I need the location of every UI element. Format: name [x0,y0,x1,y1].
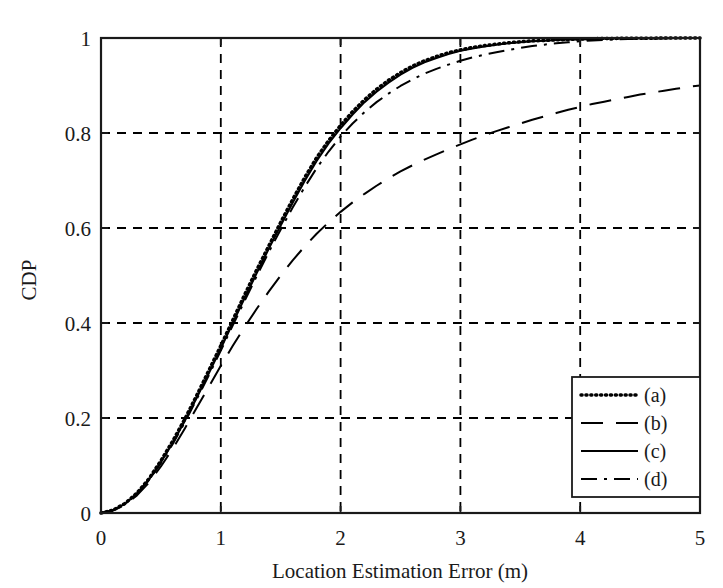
figure-page: 012345 00.20.40.60.81 Location Estimatio… [0,0,723,588]
legend-label-b[interactable]: (b) [644,412,667,435]
x-axis-title: Location Estimation Error (m) [272,559,528,583]
chart-background [0,0,723,588]
x-tick-label: 1 [216,526,227,550]
y-tick-label: 0.4 [65,312,92,336]
y-axis-title: CDP [17,260,41,301]
x-tick-label: 4 [575,526,586,550]
legend-label-c[interactable]: (c) [644,440,666,463]
x-tick-label: 0 [96,526,107,550]
x-tick-label: 5 [695,526,706,550]
x-tick-label: 2 [335,526,346,550]
y-tick-label: 0 [81,502,92,526]
chart-svg: 012345 00.20.40.60.81 Location Estimatio… [0,0,723,588]
cdf-chart: 012345 00.20.40.60.81 Location Estimatio… [0,0,723,588]
y-tick-label: 0.8 [65,122,91,146]
x-tick-label: 3 [455,526,466,550]
legend-label-d[interactable]: (d) [644,468,667,491]
y-tick-label: 0.6 [65,217,91,241]
legend-label-a[interactable]: (a) [644,384,666,407]
legend[interactable]: (a)(b)(c)(d) [572,377,700,497]
y-tick-label: 0.2 [65,407,91,431]
y-tick-label: 1 [81,27,92,51]
